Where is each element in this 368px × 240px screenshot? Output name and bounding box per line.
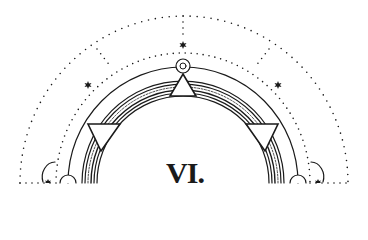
corner-arc-left xyxy=(42,162,55,182)
star-icon-bottom-right xyxy=(315,179,321,183)
top-ring-outer xyxy=(176,59,190,73)
radial-dotted-right xyxy=(255,49,269,67)
semicircle-right xyxy=(290,175,306,183)
corner-arc-right xyxy=(311,162,324,182)
semicircle-left xyxy=(60,175,76,183)
star-icon-right xyxy=(275,81,282,89)
star-icon-top xyxy=(180,41,187,49)
star-icon-left xyxy=(85,81,92,89)
radial-dotted-left xyxy=(97,49,111,67)
star-icon-bottom-left xyxy=(45,179,51,183)
diagram-label: VI. xyxy=(140,158,230,188)
